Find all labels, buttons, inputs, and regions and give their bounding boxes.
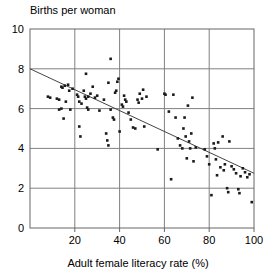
data-point bbox=[239, 175, 242, 178]
data-point bbox=[91, 85, 94, 88]
data-point bbox=[230, 165, 233, 168]
y-tick-label: 10 bbox=[12, 23, 24, 35]
data-point bbox=[224, 163, 227, 166]
data-point bbox=[143, 125, 146, 128]
data-point bbox=[168, 110, 171, 113]
x-tick-label: 60 bbox=[158, 234, 170, 246]
data-point bbox=[226, 187, 229, 190]
plot-frame bbox=[30, 29, 254, 228]
data-point bbox=[117, 77, 120, 80]
data-point bbox=[122, 105, 125, 108]
data-point bbox=[156, 148, 159, 151]
data-point bbox=[183, 116, 186, 119]
data-point bbox=[105, 132, 108, 135]
data-point bbox=[56, 97, 59, 100]
data-point bbox=[116, 80, 119, 83]
data-point bbox=[206, 155, 209, 158]
x-tick-label: 20 bbox=[69, 234, 81, 246]
data-point bbox=[67, 83, 70, 86]
data-point bbox=[127, 111, 130, 114]
y-tick-label: 4 bbox=[18, 142, 24, 154]
data-point bbox=[164, 93, 167, 96]
data-point bbox=[228, 140, 231, 143]
data-point bbox=[242, 167, 245, 170]
data-point bbox=[107, 81, 110, 84]
data-point bbox=[49, 96, 52, 99]
data-point bbox=[77, 95, 80, 98]
data-point bbox=[98, 109, 101, 112]
data-point bbox=[170, 178, 173, 181]
data-point bbox=[96, 94, 99, 97]
data-point bbox=[60, 107, 63, 110]
data-point bbox=[238, 192, 241, 195]
data-point bbox=[109, 58, 112, 61]
x-tick-label: 40 bbox=[113, 234, 125, 246]
data-point bbox=[80, 102, 83, 105]
data-point bbox=[115, 89, 118, 92]
data-points-group bbox=[47, 58, 253, 204]
data-point bbox=[174, 116, 177, 119]
data-point bbox=[219, 166, 222, 169]
data-point bbox=[184, 135, 187, 138]
data-point bbox=[78, 100, 81, 103]
data-point bbox=[227, 191, 230, 194]
y-tick-label: 6 bbox=[18, 103, 24, 115]
data-point bbox=[89, 92, 92, 95]
data-point bbox=[179, 144, 182, 147]
data-point bbox=[233, 168, 236, 171]
data-point bbox=[118, 130, 121, 133]
data-point bbox=[107, 144, 110, 147]
scatter-chart-figure: Births per woman 024681020406080100 Adul… bbox=[0, 0, 276, 278]
data-point bbox=[78, 125, 81, 128]
data-point bbox=[244, 171, 247, 174]
data-point bbox=[87, 108, 90, 111]
data-point bbox=[109, 108, 112, 111]
data-point bbox=[181, 147, 184, 150]
data-point bbox=[203, 148, 206, 151]
data-point bbox=[208, 163, 211, 166]
data-point bbox=[210, 194, 213, 197]
data-point bbox=[125, 100, 128, 103]
data-point bbox=[237, 188, 240, 191]
data-point bbox=[142, 88, 145, 91]
data-point bbox=[69, 108, 72, 111]
data-point bbox=[65, 100, 68, 103]
data-point bbox=[235, 172, 238, 175]
data-point bbox=[177, 137, 180, 140]
data-point bbox=[68, 89, 71, 92]
data-point bbox=[191, 96, 194, 99]
data-point bbox=[222, 169, 225, 172]
plot-border bbox=[30, 29, 254, 228]
data-point bbox=[123, 94, 126, 97]
data-point bbox=[194, 146, 197, 149]
data-point bbox=[172, 93, 175, 96]
data-point bbox=[182, 127, 185, 130]
data-point bbox=[221, 135, 224, 138]
data-point bbox=[246, 176, 249, 179]
data-point bbox=[62, 117, 65, 120]
data-point bbox=[85, 72, 88, 75]
x-tick-label: 100 bbox=[245, 234, 263, 246]
data-point bbox=[145, 95, 148, 98]
data-point bbox=[63, 84, 66, 87]
data-point bbox=[58, 98, 61, 101]
data-point bbox=[189, 147, 192, 150]
data-point bbox=[113, 118, 116, 121]
data-point bbox=[190, 132, 193, 135]
data-point bbox=[136, 98, 139, 101]
data-point bbox=[106, 139, 109, 142]
data-point bbox=[212, 142, 215, 145]
y-tick-label: 0 bbox=[18, 222, 24, 234]
data-point bbox=[71, 87, 74, 90]
data-point bbox=[61, 86, 64, 89]
axis-tick-labels: 024681020406080100 bbox=[12, 23, 263, 246]
data-point bbox=[186, 157, 189, 160]
data-point bbox=[58, 108, 61, 111]
y-tick-label: 2 bbox=[18, 182, 24, 194]
data-point bbox=[217, 141, 220, 144]
data-point bbox=[85, 97, 88, 100]
data-point bbox=[79, 135, 82, 138]
data-point bbox=[248, 173, 251, 176]
y-tick-label: 8 bbox=[18, 63, 24, 75]
data-point bbox=[103, 98, 106, 101]
